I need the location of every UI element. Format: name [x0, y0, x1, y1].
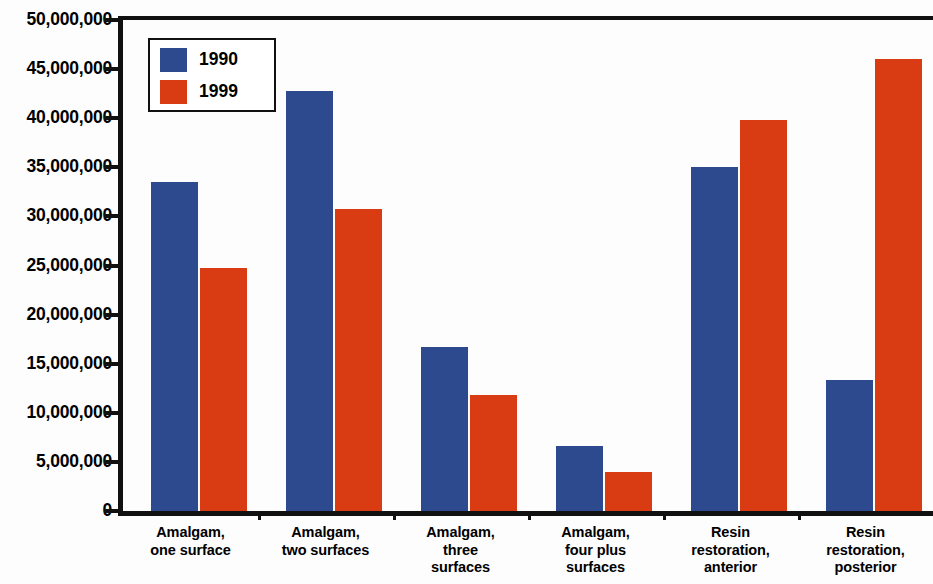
- y-axis-tick-label: 0: [0, 502, 112, 520]
- category-label-line: posterior: [798, 559, 933, 577]
- category-label-line: Resin: [663, 524, 798, 542]
- y-axis-tick-label: 45,000,000: [0, 60, 112, 78]
- legend-item-1990[interactable]: 1990: [160, 47, 238, 73]
- bar-group: [691, 20, 787, 511]
- category-label-line: one surface: [123, 542, 258, 560]
- y-axis-tick-label: 10,000,000: [0, 404, 112, 422]
- bar-1990-5: [691, 167, 738, 511]
- x-axis-tick-mark: [798, 511, 801, 520]
- x-axis-tick-mark: [393, 511, 396, 520]
- x-axis-category-label: Amalgam,four plussurfaces: [528, 524, 663, 577]
- category-label-line: Amalgam,: [258, 524, 393, 542]
- category-label-line: Amalgam,: [528, 524, 663, 542]
- bar-1999-4: [605, 472, 652, 511]
- bar-group: [286, 20, 382, 511]
- legend-item-1999[interactable]: 1999: [160, 79, 238, 105]
- y-axis-tick-labels: 05,000,00010,000,00015,000,00020,000,000…: [0, 0, 112, 584]
- category-label-line: surfaces: [528, 559, 663, 577]
- bar-1990-6: [826, 380, 873, 511]
- x-axis-category-label: Amalgam,threesurfaces: [393, 524, 528, 577]
- bar-1990-4: [556, 446, 603, 511]
- bar-1999-2: [335, 209, 382, 511]
- bar-1999-5: [740, 120, 787, 511]
- legend-label: 1999: [199, 83, 238, 101]
- x-axis-tick-mark: [663, 511, 666, 520]
- bar-1990-3: [421, 347, 468, 511]
- category-label-line: Amalgam,: [123, 524, 258, 542]
- x-axis-tick-mark: [258, 511, 261, 520]
- category-label-line: restoration,: [663, 542, 798, 560]
- x-axis-category-label: Resinrestoration,anterior: [663, 524, 798, 577]
- category-label-line: Resin: [798, 524, 933, 542]
- category-label-line: restoration,: [798, 542, 933, 560]
- chart-legend: 19901999: [148, 38, 276, 112]
- bar-1990-1: [151, 182, 198, 511]
- y-axis-tick-label: 20,000,000: [0, 306, 112, 324]
- category-label-line: three: [393, 542, 528, 560]
- x-axis-category-label: Resinrestoration,posterior: [798, 524, 933, 577]
- y-axis-tick-label: 50,000,000: [0, 11, 112, 29]
- category-label-line: four plus: [528, 542, 663, 560]
- legend-swatch-icon: [160, 80, 187, 104]
- legend-label: 1990: [199, 51, 238, 69]
- bar-1990-2: [286, 91, 333, 511]
- x-axis-category-label: Amalgam,one surface: [123, 524, 258, 559]
- x-axis-tick-mark: [528, 511, 531, 520]
- x-axis-line: [118, 511, 933, 516]
- bar-group: [826, 20, 922, 511]
- bar-chart: 05,000,00010,000,00015,000,00020,000,000…: [0, 0, 933, 584]
- category-label-line: surfaces: [393, 559, 528, 577]
- y-axis-tick-label: 35,000,000: [0, 159, 112, 177]
- bar-1999-3: [470, 395, 517, 511]
- bar-1999-1: [200, 268, 247, 511]
- category-label-line: anterior: [663, 559, 798, 577]
- y-axis-tick-label: 30,000,000: [0, 208, 112, 226]
- y-axis-tick-label: 40,000,000: [0, 109, 112, 127]
- y-axis-tick-label: 5,000,000: [0, 453, 112, 471]
- category-label-line: two surfaces: [258, 542, 393, 560]
- bar-group: [421, 20, 517, 511]
- y-axis-tick-label: 25,000,000: [0, 257, 112, 275]
- bar-group: [556, 20, 652, 511]
- category-label-line: Amalgam,: [393, 524, 528, 542]
- x-axis-category-labels: Amalgam,one surfaceAmalgam,two surfacesA…: [123, 524, 933, 584]
- y-axis-tick-label: 15,000,000: [0, 355, 112, 373]
- bar-1999-6: [875, 59, 922, 511]
- x-axis-category-label: Amalgam,two surfaces: [258, 524, 393, 559]
- legend-swatch-icon: [160, 48, 187, 72]
